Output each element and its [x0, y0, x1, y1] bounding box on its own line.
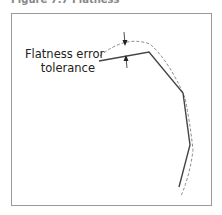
label-line-2: tolerance	[25, 61, 95, 75]
polyline-approximation	[99, 52, 190, 187]
label-line-1: Flatness error	[25, 47, 95, 61]
flatness-label: Flatness error tolerance	[25, 47, 95, 75]
true-curve	[100, 41, 193, 196]
flatness-diagram	[0, 0, 222, 215]
